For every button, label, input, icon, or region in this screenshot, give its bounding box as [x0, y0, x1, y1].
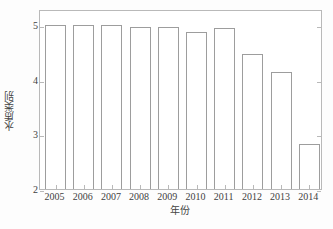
bar	[73, 25, 94, 189]
x-axis-tick-mark	[84, 185, 85, 189]
x-axis-tick-labels: 2005200620072008200920102011201220132014	[39, 191, 322, 205]
x-axis-tick-mark	[253, 185, 254, 189]
x-axis-tick-mark	[112, 185, 113, 189]
chart-figure: 水质类别 2345 200520062007200820092010201120…	[0, 0, 333, 229]
x-axis-tick-mark	[225, 185, 226, 189]
x-axis-tick-label: 2012	[238, 191, 266, 203]
x-axis-tick-label: 2009	[153, 191, 181, 203]
bar	[186, 32, 207, 189]
x-axis-tick-mark	[56, 185, 57, 189]
y-axis-tick-label: 3	[24, 130, 38, 140]
y-axis-title: 水质类别	[2, 66, 18, 156]
bar	[214, 28, 235, 189]
bar	[158, 27, 179, 189]
x-axis-title: 年份	[0, 205, 333, 217]
bar	[242, 54, 263, 189]
x-axis-tick-label: 2011	[210, 191, 238, 203]
x-axis-tick-label: 2007	[97, 191, 125, 203]
y-axis-tick-label: 5	[24, 21, 38, 31]
y-axis-tick-labels: 2345	[20, 0, 38, 229]
x-axis-tick-mark	[140, 185, 141, 189]
x-axis-tick-mark	[197, 185, 198, 189]
plot-inner	[40, 11, 321, 189]
y-axis-tick-mark	[317, 27, 321, 28]
y-axis-tick-mark	[40, 136, 44, 137]
x-axis-tick-mark	[309, 185, 310, 189]
y-axis-tick-mark	[317, 136, 321, 137]
x-axis-tick-mark	[168, 185, 169, 189]
x-axis-tick-label: 2005	[41, 191, 69, 203]
y-axis-tick-mark	[40, 82, 44, 83]
y-axis-tick-label: 4	[24, 76, 38, 86]
x-axis-tick-label: 2010	[182, 191, 210, 203]
bar	[130, 27, 151, 189]
bar	[45, 25, 66, 189]
bar	[271, 72, 292, 189]
x-axis-tick-mark	[281, 185, 282, 189]
bar	[299, 144, 320, 189]
plot-area	[39, 10, 322, 190]
x-axis-tick-label: 2006	[69, 191, 97, 203]
y-axis-tick-mark	[317, 82, 321, 83]
bar	[101, 25, 122, 189]
x-axis-tick-label: 2014	[294, 191, 322, 203]
x-axis-tick-label: 2013	[266, 191, 294, 203]
x-axis-tick-label: 2008	[125, 191, 153, 203]
y-axis-tick-mark	[40, 27, 44, 28]
y-axis-tick-label: 2	[24, 185, 38, 195]
